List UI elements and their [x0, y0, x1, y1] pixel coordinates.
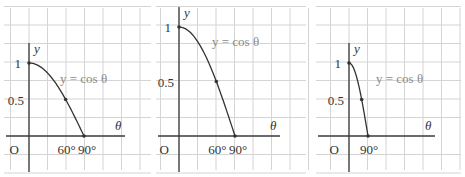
data-point — [347, 61, 351, 65]
data-point — [177, 25, 181, 29]
y-tick-1: 1 — [165, 20, 172, 35]
data-point — [82, 134, 86, 138]
data-point — [360, 98, 364, 102]
data-point — [64, 98, 68, 102]
x-tick-90: 90° — [360, 142, 378, 157]
data-point — [215, 80, 219, 84]
y-axis-label: y — [182, 5, 190, 20]
y-axis-label: y — [32, 41, 40, 56]
equation-label: y = cos θ — [212, 34, 259, 49]
cosine-graphs-figure: yθ10.5O60°90°y = cos θyθ10.5O60°90°y = c… — [0, 0, 465, 177]
origin-label: O — [330, 142, 339, 157]
data-point — [27, 61, 31, 65]
cosine-graph-panel-2: yθ10.5O60°90°y = cos θ — [156, 5, 309, 173]
x-axis-label: θ — [115, 118, 122, 133]
y-axis-label: y — [352, 41, 360, 56]
y-tick-0-5: 0.5 — [158, 75, 174, 90]
y-tick-1: 1 — [335, 56, 342, 71]
cosine-graph-panel-1: yθ10.5O60°90°y = cos θ — [4, 7, 151, 174]
equation-label: y = cos θ — [376, 71, 423, 86]
data-point — [233, 134, 237, 138]
y-tick-0-5: 0.5 — [8, 93, 24, 108]
x-tick-90: 90° — [78, 142, 96, 157]
y-tick-1: 1 — [15, 56, 22, 71]
x-tick-60: 60° — [58, 142, 76, 157]
equation-label: y = cos θ — [60, 71, 107, 86]
origin-label: O — [10, 142, 19, 157]
x-axis-label: θ — [270, 118, 277, 133]
x-tick-90: 90° — [229, 142, 247, 157]
x-tick-60: 60° — [208, 142, 226, 157]
data-point — [366, 134, 370, 138]
origin-label: O — [160, 142, 169, 157]
x-axis-label: θ — [425, 118, 432, 133]
y-tick-0-5: 0.5 — [328, 93, 344, 108]
cosine-graph-panel-3: yθ10.5O90°y = cos θ — [316, 7, 461, 174]
